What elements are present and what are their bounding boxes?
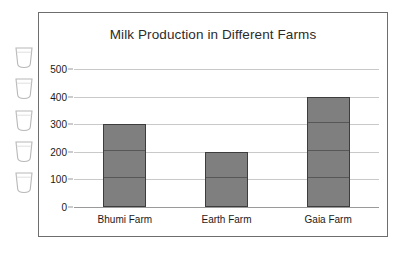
gridline-over-bar [104,150,145,151]
milk-glass-icon [13,109,35,132]
milk-glass-icon [13,46,35,69]
y-tick-label: 100 [50,174,67,185]
y-tick-label: 200 [50,146,67,157]
chart-title: Milk Production in Different Farms [39,27,387,42]
bar [205,152,248,207]
milk-glass-column [10,46,38,194]
gridline [74,207,379,208]
y-tick-mark [68,207,73,208]
y-tick-label: 500 [50,64,67,75]
gridline-over-bar [308,122,349,123]
milk-glass-icon [13,171,35,194]
gridline-over-bar [104,177,145,178]
x-category-label: Bhumi Farm [98,214,152,225]
milk-glass-icon [13,171,35,194]
bar [103,124,146,207]
y-tick-mark [68,151,73,152]
gridline-over-bar [308,150,349,151]
milk-glass-icon [13,77,35,100]
milk-glass-icon [13,109,35,132]
milk-glass-icon [13,140,35,163]
bar [307,97,350,207]
milk-glass-icon [13,140,35,163]
milk-glass-icon [13,77,35,100]
gridline-over-bar [308,177,349,178]
y-tick-mark [68,96,73,97]
gridline-over-bar [206,177,247,178]
plot-area: 0100200300400500Bhumi FarmEarth FarmGaia… [74,69,379,207]
y-tick-label: 300 [50,119,67,130]
y-tick-mark [68,179,73,180]
milk-glass-icon [13,46,35,69]
gridline [74,69,379,70]
y-tick-label: 400 [50,91,67,102]
x-category-label: Earth Farm [201,214,251,225]
y-tick-mark [68,124,73,125]
y-tick-mark [68,69,73,70]
x-category-label: Gaia Farm [305,214,352,225]
chart-frame: Milk Production in Different Farms 01002… [38,12,388,237]
y-tick-label: 0 [61,202,67,213]
